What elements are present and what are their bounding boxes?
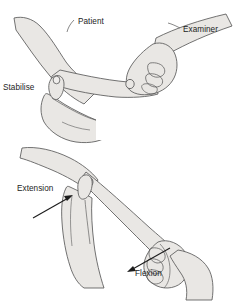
examiner-thumb-tip <box>126 79 134 88</box>
label-extension: Extension <box>17 184 54 193</box>
label-examiner: Examiner <box>183 25 218 34</box>
forearm-cuff <box>96 112 126 140</box>
label-stabilise: Stabilise <box>3 83 35 92</box>
label-patient: Patient <box>78 17 105 26</box>
stabilising-fingertip-nail <box>53 76 60 84</box>
elbow-examination-illustration: Patient Examiner Stabilise <box>0 0 238 305</box>
label-flexion: Flexion <box>135 269 162 278</box>
